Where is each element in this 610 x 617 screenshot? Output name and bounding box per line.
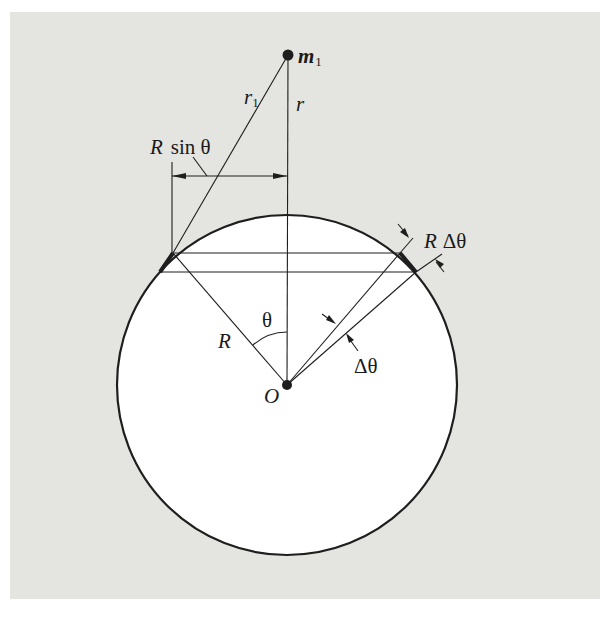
mass-point-m1 <box>283 50 294 61</box>
label-radius-R: R <box>217 329 231 353</box>
label-r-delta-theta: RΔθ <box>423 229 466 253</box>
shell-theorem-diagram: m1 r1 r Rsin θ RΔθ R θ Δθ O <box>0 0 610 617</box>
label-r: r <box>296 92 305 116</box>
label-origin-O: O <box>264 384 279 408</box>
label-r-sin-theta: Rsin θ <box>149 135 211 159</box>
label-delta-theta: Δθ <box>354 354 378 378</box>
origin-point-O <box>282 380 292 390</box>
label-theta: θ <box>262 308 272 332</box>
